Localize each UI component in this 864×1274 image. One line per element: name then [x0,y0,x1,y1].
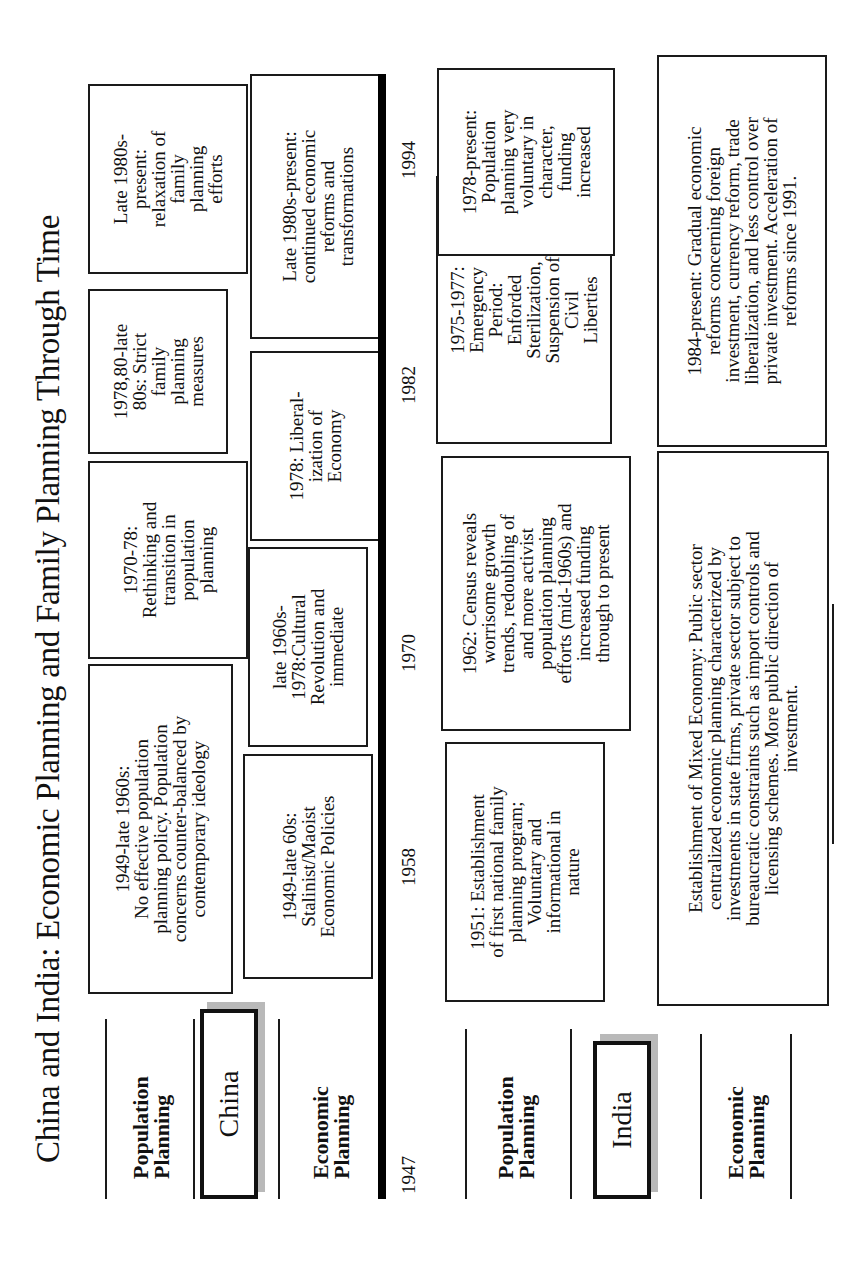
india-country-label: India [593,1041,651,1199]
china-label: China [213,1071,245,1138]
india-pop-event-4: 1978-present: Population planning very v… [437,68,615,256]
china-econ-event-2: late 1960s- 1978:Cultural Revolution and… [248,547,368,747]
india-pop-event-2: 1962: Census reveals worrisome growth tr… [441,456,631,731]
china-economic-label: Economic Planning [310,1059,352,1179]
year-label: 1958 [398,848,420,886]
china-population-label: Population Planning [130,1059,172,1179]
india-econ-event-2: 1984-present: Gradual economic reforms c… [657,55,827,447]
rule [832,604,834,844]
diagram-canvas: China and India: Economic Planning and F… [0,0,864,1274]
year-label: 1970 [398,634,420,672]
rule [193,1019,195,1199]
year-label: 1982 [398,366,420,404]
diagram-title: China and India: Economic Planning and F… [30,134,67,1244]
china-pop-event-4: Late 1980s- present: relaxation of famil… [88,84,248,274]
year-label: 1947 [398,1156,420,1194]
india-pop-event-1: 1951: Establishment of first national fa… [445,742,605,1002]
rule [105,1019,107,1199]
china-pop-event-3: 1978,80-late 80s: Strict family planning… [88,289,228,454]
rule [570,1029,572,1199]
rule [278,1019,280,1199]
year-label: 1994 [398,141,420,179]
china-econ-event-3: 1978: Liberal- ization of Economy [250,351,380,541]
india-label: India [606,1091,638,1149]
china-country-label: China [200,1009,258,1199]
rule [465,1029,467,1199]
rule [790,1034,792,1199]
china-econ-event-1: 1949-late 60s: Stalinist/Maoist Economic… [243,754,373,979]
india-economic-label: Economic Planning [725,1059,767,1179]
china-pop-event-1: 1949-late 1960s: No effective population… [88,664,233,994]
china-econ-event-4: Late 1980s-present: continued economic r… [250,74,385,339]
rule [700,1034,702,1199]
india-population-label: Population Planning [495,1059,537,1179]
china-pop-event-2: 1970-78: Rethinking and transition in po… [88,461,248,659]
india-econ-event-1: Establishment of Mixed Economy: Public s… [657,451,829,1006]
china-india-divider [378,74,386,1199]
